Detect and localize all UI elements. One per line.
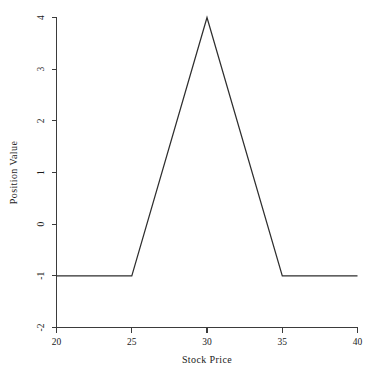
y-tick-label-neg1: -1 [36, 272, 46, 280]
y-tick-label-4: 4 [36, 15, 46, 20]
x-tick-label-40: 40 [353, 337, 363, 347]
y-tick-label-0: 0 [36, 222, 46, 227]
y-tick-label-2: 2 [36, 118, 46, 123]
x-tick-label-35: 35 [277, 337, 287, 347]
y-tick-label-3: 3 [36, 67, 46, 72]
x-tick-label-30: 30 [202, 337, 212, 347]
x-tick-label-25: 25 [127, 337, 137, 347]
position-value-line-chart: 4 3 2 1 0 -1 -2 20 25 30 35 40 Stock Pri… [0, 0, 374, 376]
x-axis-title: Stock Price [182, 354, 232, 365]
y-tick-label-neg2: -2 [36, 323, 46, 331]
x-tick-label-20: 20 [52, 337, 62, 347]
y-axis-title: Position Value [8, 141, 19, 205]
y-tick-label-1: 1 [36, 170, 46, 175]
chart-container: 4 3 2 1 0 -1 -2 20 25 30 35 40 Stock Pri… [0, 0, 374, 376]
